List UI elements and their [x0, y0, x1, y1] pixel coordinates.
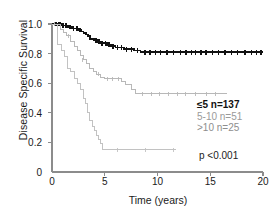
x-tick-label: 0 — [32, 176, 72, 187]
x-tick-label: 15 — [190, 176, 230, 187]
x-tick-label: 10 — [138, 176, 178, 187]
legend: ≤5 n=137 5-10 n=51 >10 n=25 — [197, 99, 242, 134]
y-axis-tick-marks — [48, 24, 52, 142]
p-value-annotation: p <0.001 — [199, 150, 238, 161]
legend-item-gt10: >10 n=25 — [197, 122, 242, 134]
survival-curve-1 — [52, 22, 227, 96]
x-tick-label: 20 — [243, 176, 276, 187]
survival-curve-2 — [52, 24, 176, 152]
legend-item-le5: ≤5 n=137 — [197, 99, 242, 111]
kaplan-meier-figure: Disease Specific Survival 00.20.40.60.81… — [0, 0, 276, 214]
x-tick-label: 5 — [85, 176, 125, 187]
legend-item-5-10: 5-10 n=51 — [197, 111, 242, 123]
x-axis-label: Time (years) — [52, 194, 264, 206]
x-axis-tick-labels: 05101520 — [0, 176, 276, 192]
survival-curve-0 — [52, 22, 263, 55]
